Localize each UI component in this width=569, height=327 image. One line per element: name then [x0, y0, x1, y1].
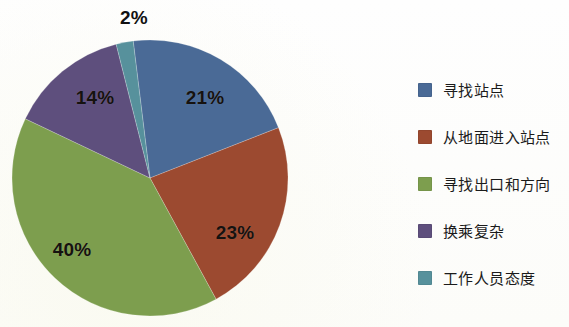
- pie-slice-value-label: 2%: [120, 7, 148, 29]
- legend-item-label: 从地面进入站点: [443, 126, 551, 147]
- legend-item[interactable]: 工作人员态度: [418, 254, 568, 301]
- pie-chart-svg: [12, 40, 288, 316]
- legend-color-swatch: [418, 177, 432, 191]
- chart-legend: 寻找站点从地面进入站点寻找出口和方向换乘复杂工作人员态度: [418, 66, 568, 301]
- legend-item-label: 寻找站点: [443, 79, 505, 100]
- legend-color-swatch: [418, 224, 432, 238]
- pie-slice-value-label: 14%: [76, 87, 115, 109]
- legend-item[interactable]: 从地面进入站点: [418, 113, 568, 160]
- legend-color-swatch: [418, 271, 432, 285]
- legend-color-swatch: [418, 83, 432, 97]
- legend-item-label: 寻找出口和方向: [443, 173, 551, 194]
- pie-slice-value-label: 23%: [216, 222, 255, 244]
- legend-item[interactable]: 换乘复杂: [418, 207, 568, 254]
- legend-item-label: 工作人员态度: [443, 267, 535, 288]
- pie-slice-value-label: 40%: [53, 239, 92, 261]
- pie-chart: 21%23%40%14%2%: [12, 40, 288, 316]
- legend-color-swatch: [418, 130, 432, 144]
- pie-slice-group: [12, 40, 288, 316]
- legend-item-label: 换乘复杂: [443, 220, 505, 241]
- legend-item[interactable]: 寻找出口和方向: [418, 160, 568, 207]
- pie-slice-value-label: 21%: [186, 87, 225, 109]
- legend-item[interactable]: 寻找站点: [418, 66, 568, 113]
- chart-page: 21%23%40%14%2% 寻找站点从地面进入站点寻找出口和方向换乘复杂工作人…: [0, 0, 569, 327]
